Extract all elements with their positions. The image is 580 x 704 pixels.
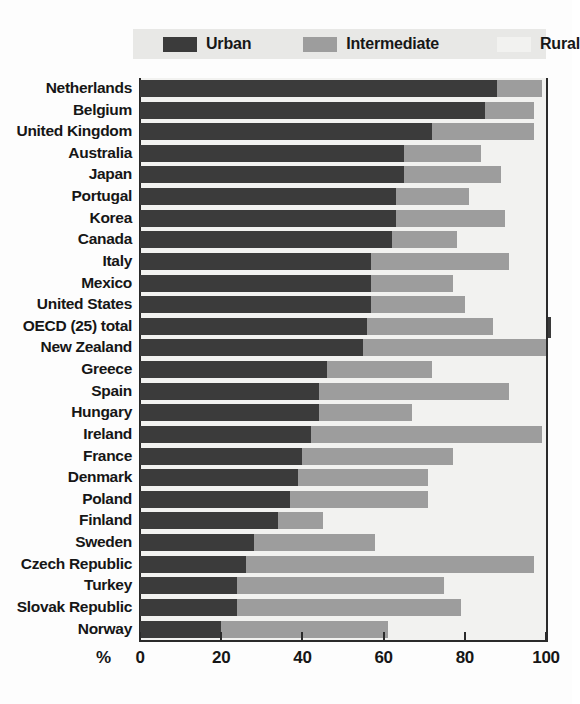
bar-segment-rural[interactable] [509,383,546,400]
bar-segment-intermediate[interactable] [254,534,376,551]
table-row[interactable]: Japan [0,164,572,186]
table-row[interactable]: Canada [0,229,572,251]
bar-segment-urban[interactable] [140,426,311,443]
bar-segment-urban[interactable] [140,275,371,292]
bar-segment-intermediate[interactable] [319,404,412,421]
bar-segment-intermediate[interactable] [371,296,464,313]
bar-segment-intermediate[interactable] [311,426,542,443]
bar-segment-rural[interactable] [469,188,546,205]
bar-segment-intermediate[interactable] [396,188,469,205]
bar-segment-urban[interactable] [140,318,367,335]
table-row[interactable]: United Kingdom [0,121,572,143]
bar-segment-intermediate[interactable] [221,621,387,638]
bar-segment-rural[interactable] [534,556,546,573]
bar-segment-rural[interactable] [445,577,547,594]
table-row[interactable]: Australia [0,143,572,165]
bar-segment-urban[interactable] [140,404,319,421]
bar-segment-rural[interactable] [493,318,546,335]
bar-segment-urban[interactable] [140,102,485,119]
bar-segment-rural[interactable] [501,166,546,183]
table-row[interactable]: United States [0,294,572,316]
bar-segment-urban[interactable] [140,188,396,205]
table-row[interactable]: Sweden [0,532,572,554]
table-row[interactable]: Czech Republic [0,554,572,576]
bar-segment-urban[interactable] [140,621,221,638]
bar-segment-intermediate[interactable] [237,577,444,594]
bar-segment-urban[interactable] [140,599,237,616]
bar-segment-rural[interactable] [481,145,546,162]
bar-segment-intermediate[interactable] [246,556,534,573]
bar-segment-intermediate[interactable] [290,491,428,508]
bar-segment-urban[interactable] [140,210,396,227]
table-row[interactable]: New Zealand [0,337,572,359]
bar-segment-rural[interactable] [375,534,546,551]
bar-segment-intermediate[interactable] [404,166,501,183]
table-row[interactable]: Korea [0,208,572,230]
bar-segment-intermediate[interactable] [278,512,323,529]
bar-segment-intermediate[interactable] [404,145,481,162]
bar-segment-intermediate[interactable] [371,253,509,270]
bar-segment-urban[interactable] [140,491,290,508]
table-row[interactable]: Finland [0,510,572,532]
bar-segment-rural[interactable] [412,404,546,421]
bar-segment-urban[interactable] [140,145,404,162]
bar-segment-intermediate[interactable] [327,361,433,378]
bar-segment-urban[interactable] [140,534,254,551]
bar-segment-intermediate[interactable] [302,448,452,465]
table-row[interactable]: OECD (25) total [0,316,572,338]
bar-segment-urban[interactable] [140,577,237,594]
bar-segment-rural[interactable] [465,296,546,313]
table-row[interactable]: France [0,446,572,468]
table-row[interactable]: Slovak Republic [0,597,572,619]
table-row[interactable]: Ireland [0,424,572,446]
bar-segment-intermediate[interactable] [396,210,506,227]
bar-segment-rural[interactable] [428,491,546,508]
bar-segment-urban[interactable] [140,361,327,378]
bar-segment-urban[interactable] [140,339,363,356]
bar-segment-rural[interactable] [509,253,546,270]
bar-segment-rural[interactable] [534,102,546,119]
bar-segment-urban[interactable] [140,231,392,248]
bar-segment-urban[interactable] [140,296,371,313]
bar-segment-intermediate[interactable] [432,123,534,140]
table-row[interactable]: Greece [0,359,572,381]
bar-segment-rural[interactable] [534,123,546,140]
bar-segment-rural[interactable] [388,621,546,638]
bar-segment-intermediate[interactable] [392,231,457,248]
bar-segment-urban[interactable] [140,469,298,486]
bar-segment-urban[interactable] [140,253,371,270]
bar-segment-intermediate[interactable] [298,469,428,486]
table-row[interactable]: Portugal [0,186,572,208]
bar-segment-intermediate[interactable] [485,102,534,119]
bar-segment-urban[interactable] [140,80,497,97]
table-row[interactable]: Hungary [0,402,572,424]
bar-segment-rural[interactable] [428,469,546,486]
bar-segment-intermediate[interactable] [497,80,542,97]
bar-segment-urban[interactable] [140,512,278,529]
table-row[interactable]: Denmark [0,467,572,489]
bar-segment-urban[interactable] [140,123,432,140]
bar-segment-intermediate[interactable] [319,383,510,400]
bar-segment-urban[interactable] [140,383,319,400]
bar-segment-intermediate[interactable] [367,318,493,335]
table-row[interactable]: Poland [0,489,572,511]
table-row[interactable]: Italy [0,251,572,273]
bar-segment-rural[interactable] [453,448,546,465]
bar-segment-rural[interactable] [505,210,546,227]
bar-segment-rural[interactable] [461,599,546,616]
bar-segment-rural[interactable] [432,361,546,378]
table-row[interactable]: Norway [0,619,572,641]
bar-segment-rural[interactable] [453,275,546,292]
bar-segment-rural[interactable] [457,231,546,248]
bar-segment-intermediate[interactable] [237,599,460,616]
bar-segment-intermediate[interactable] [363,339,546,356]
table-row[interactable]: Mexico [0,273,572,295]
bar-segment-urban[interactable] [140,448,302,465]
table-row[interactable]: Turkey [0,575,572,597]
bar-segment-urban[interactable] [140,166,404,183]
table-row[interactable]: Netherlands [0,78,572,100]
table-row[interactable]: Belgium [0,100,572,122]
bar-segment-rural[interactable] [323,512,546,529]
bar-segment-urban[interactable] [140,556,246,573]
table-row[interactable]: Spain [0,381,572,403]
